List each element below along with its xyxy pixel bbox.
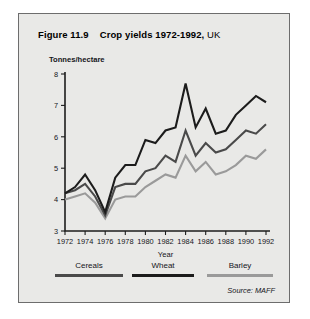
x-axis-title: Year [158,250,174,259]
x-tick-label: 1972 [57,237,73,246]
figure-card: Figure 11.9 Crop yields 1972-1992, UK To… [18,13,290,303]
x-tick-label: 1980 [137,237,153,246]
y-axis-unit-label: Tonnes/hectare [49,55,105,64]
axis-lines [65,72,270,231]
series-line-barley [65,149,266,218]
y-tick-label: 3 [54,227,58,236]
y-tick-label: 4 [54,195,58,204]
line-chart: Tonnes/hectare34567819721974197619781980… [19,14,291,264]
x-tick-label: 1976 [97,237,113,246]
chart-legend: Cereals Wheat Barley [19,261,291,287]
y-tick-label: 6 [54,133,58,142]
legend-swatch-cereals [55,274,123,277]
legend-item-cereals: Cereals [55,261,123,277]
source-note: Source: MAFF [227,286,275,295]
legend-label-barley: Barley [207,261,273,271]
x-tick-label: 1974 [77,237,93,246]
y-tick-label: 7 [54,101,58,110]
x-tick-label: 1990 [238,237,254,246]
y-tick-label: 5 [54,164,58,173]
y-tick-label: 8 [54,70,58,79]
x-tick-label: 1988 [218,237,234,246]
x-tick-label: 1984 [177,237,193,246]
legend-swatch-wheat [132,274,194,277]
legend-label-wheat: Wheat [132,261,194,271]
legend-item-barley: Barley [207,261,273,277]
legend-item-wheat: Wheat [132,261,194,277]
x-tick-label: 1986 [197,237,213,246]
x-tick-label: 1982 [157,237,173,246]
legend-label-cereals: Cereals [55,261,123,271]
x-tick-label: 1978 [117,237,133,246]
series-line-wheat [65,83,266,212]
x-tick-label: 1992 [258,237,274,246]
legend-swatch-barley [207,274,273,277]
